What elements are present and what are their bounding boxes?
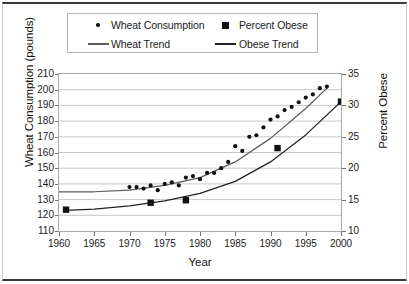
x-axis-tick-label: 1965	[76, 238, 112, 249]
x-axis-tick-label: 2000	[323, 238, 359, 249]
chart-legend: Wheat Consumption Percent Obese Wheat Tr…	[67, 13, 318, 53]
data-point-circle	[268, 117, 272, 121]
trend-lines	[59, 88, 341, 210]
data-point-circle	[191, 174, 195, 178]
x-axis-tick-label: 1985	[217, 238, 253, 249]
y-axis-left-tick-label: 210	[30, 68, 54, 79]
tick-mark	[59, 232, 60, 236]
data-point-circle	[283, 108, 287, 112]
tick-mark	[342, 74, 346, 75]
x-axis-tick-label: 1995	[288, 238, 324, 249]
plot-area	[58, 73, 342, 232]
line-marker-light-icon	[85, 37, 111, 51]
data-point-circle	[177, 183, 181, 187]
legend-row: Wheat Trend Obese Trend	[68, 34, 317, 54]
data-point-circle	[205, 171, 209, 175]
data-point-circle	[297, 100, 301, 104]
data-point-circle	[198, 177, 202, 181]
legend-label: Wheat Consumption	[111, 19, 204, 31]
plot-svg	[59, 74, 341, 231]
data-point-circle	[134, 185, 138, 189]
data-point-circle	[212, 171, 216, 175]
data-point-circle	[254, 133, 258, 137]
gridlines	[59, 90, 341, 216]
tick-mark	[235, 232, 236, 236]
y-axis-left-tick-label: 200	[30, 84, 54, 95]
data-point-square	[63, 206, 69, 212]
y-axis-right-tick-label: 15	[348, 194, 372, 205]
y-axis-right-tick-label: 30	[348, 99, 372, 110]
y-axis-right-tick-label: 20	[348, 162, 372, 173]
legend-label: Percent Obese	[239, 19, 308, 31]
line-marker-dark-icon	[213, 37, 239, 51]
x-axis-tick-label: 1980	[182, 238, 218, 249]
dot-marker	[85, 18, 111, 32]
legend-item-wheat-consumption: Wheat Consumption	[68, 15, 207, 35]
data-point-circle	[318, 86, 322, 90]
data-point-circle	[311, 92, 315, 96]
x-axis-tick-label: 1975	[147, 238, 183, 249]
legend-label: Obese Trend	[239, 38, 299, 50]
legend-item-obese-trend: Obese Trend	[207, 34, 317, 54]
data-point-circle	[219, 166, 223, 170]
y-axis-left-tick-label: 180	[30, 115, 54, 126]
y-axis-left-tick-label: 150	[30, 162, 54, 173]
tick-mark	[342, 137, 346, 138]
data-point-circle	[127, 185, 131, 189]
y-axis-left-tick-label: 120	[30, 209, 54, 220]
y-axis-left-tick-label: 110	[30, 225, 54, 236]
data-markers	[63, 84, 341, 212]
data-point-circle	[156, 188, 160, 192]
data-point-circle	[247, 135, 251, 139]
tick-mark	[130, 232, 131, 236]
tick-mark	[342, 231, 346, 232]
data-point-circle	[149, 183, 153, 187]
y-axis-right-tick-label: 10	[348, 225, 372, 236]
tick-mark	[200, 232, 201, 236]
y-axis-right-tick-label: 25	[348, 131, 372, 142]
data-point-circle	[304, 95, 308, 99]
tick-mark	[342, 105, 346, 106]
y-axis-right-tick-label: 35	[348, 68, 372, 79]
data-point-square	[274, 145, 280, 151]
tick-mark	[342, 168, 346, 169]
legend-item-wheat-trend: Wheat Trend	[68, 34, 207, 54]
tick-mark	[341, 232, 342, 236]
y-axis-left-tick-label: 170	[30, 131, 54, 142]
data-point-circle	[240, 149, 244, 153]
legend-item-percent-obese: Percent Obese	[207, 15, 317, 35]
x-axis-title: Year	[55, 256, 345, 268]
x-axis-tick-label: 1990	[253, 238, 289, 249]
data-point-square	[147, 200, 153, 206]
data-point-circle	[261, 125, 265, 129]
data-point-circle	[163, 182, 167, 186]
y-axis-left-tick-label: 190	[30, 99, 54, 110]
tick-mark	[94, 232, 95, 236]
data-point-circle	[325, 84, 329, 88]
data-point-square	[338, 98, 341, 104]
data-point-square	[183, 197, 189, 203]
tick-mark	[342, 200, 346, 201]
y-axis-left-tick-label: 160	[30, 147, 54, 158]
tick-mark	[271, 232, 272, 236]
data-point-circle	[233, 144, 237, 148]
chart-figure: Wheat Consumption Percent Obese Wheat Tr…	[0, 0, 409, 284]
trend-line	[66, 102, 341, 211]
data-point-circle	[170, 180, 174, 184]
legend-row: Wheat Consumption Percent Obese	[68, 15, 317, 35]
data-point-circle	[226, 160, 230, 164]
x-axis-tick-label: 1960	[41, 238, 77, 249]
legend-label: Wheat Trend	[111, 38, 170, 50]
square-marker	[213, 18, 239, 32]
data-point-circle	[275, 114, 279, 118]
y-axis-left-tick-label: 130	[30, 194, 54, 205]
x-axis-tick-label: 1970	[112, 238, 148, 249]
tick-mark	[306, 232, 307, 236]
tick-mark	[165, 232, 166, 236]
y-axis-right-title: Percent Obese	[377, 46, 389, 176]
y-axis-left-tick-label: 140	[30, 178, 54, 189]
data-point-circle	[184, 176, 188, 180]
data-point-circle	[142, 187, 146, 191]
data-point-circle	[290, 105, 294, 109]
